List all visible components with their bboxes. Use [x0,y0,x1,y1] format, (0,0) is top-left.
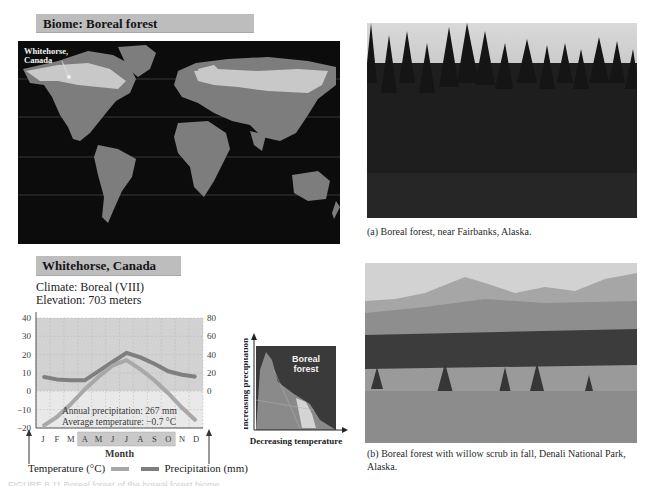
whitehorse-marker-icon [67,75,71,79]
x-axis-label: Month [105,448,134,459]
location-header: Whitehorse, Canada [36,256,181,276]
left-tick-label: −10 [17,405,32,415]
map-label-line2: Canada [24,56,68,65]
month-tick-label: J [41,434,45,444]
temperature-point [112,365,114,367]
diagram-y-arrow-icon [251,333,257,340]
month-tick-label: O [165,434,171,444]
photo-b-graphic [365,263,637,443]
world-map: Whitehorse, Canada [18,41,340,244]
precipitation-point [112,361,114,363]
left-tick-label: 0 [27,386,32,396]
precipitation-point [98,370,100,372]
diagram-label-line2: forest [293,364,318,374]
temperature-point [42,425,44,427]
month-tick-label: D [193,434,199,444]
map-label-whitehorse: Whitehorse, Canada [24,47,68,65]
month-tick-label: F [55,434,60,444]
tree-line [365,329,637,369]
biome-diagram: Boreal forest Decreasing temperature Inc… [244,330,349,450]
right-tick-label: 80 [207,313,217,323]
month-tick-label: N [179,434,185,444]
left-tick-label: 40 [22,313,32,323]
new-zealand [332,201,340,219]
precipitation-point [167,370,169,372]
precipitation-point [153,363,155,365]
legend-precipitation-label: Precipitation (mm) [164,462,247,474]
diagram-y-label: Increasing precipitation [244,338,250,430]
right-tick-label: 40 [207,350,217,360]
chart-annotation: Annual precipitation: 267 mm [62,406,177,416]
temperature-point [84,389,86,391]
diagram-x-arrow-icon [342,427,348,433]
figure-caption: FIGURE 8.11 Boreal forest of the boreal … [8,480,222,486]
month-tick-label: A [82,434,89,444]
photo-denali-willow-scrub [365,263,637,443]
left-tick-label: 20 [22,350,32,360]
temperature-point [56,416,58,418]
south-america [94,145,136,223]
temperature-point [153,380,155,382]
photo-boreal-forest-fairbanks [367,23,637,218]
month-tick-label: M [95,434,103,444]
world-map-graphic [18,41,340,244]
temperature-point [126,359,128,361]
australia [292,171,330,201]
precipitation-point [70,380,72,382]
legend-temperature-label: Temperature (°C) [28,462,105,474]
precipitation-point [126,352,128,354]
precipitation-point [56,379,58,381]
right-tick-label: 20 [207,368,217,378]
precipitation-point [42,376,44,378]
precipitation-point [140,357,142,359]
chart-legend: Temperature (°C) Precipitation (mm) [28,462,248,474]
biome-header: Biome: Boreal forest [36,14,254,33]
legend-temperature-swatch [111,467,129,471]
temperature-point [98,376,100,378]
left-tick-label: 10 [22,368,32,378]
precipitation-point [84,380,86,382]
legend-precipitation-swatch [141,467,159,471]
temperature-point [181,407,183,409]
month-tick-label: S [152,434,157,444]
caption-photo-a: (a) Boreal forest, near Fairbanks, Alask… [367,225,647,238]
photo-a-graphic [367,23,637,218]
month-tick-label: A [137,434,144,444]
diagram-label-line1: Boreal [292,354,320,364]
temperature-point [140,369,142,371]
caption-photo-b: (b) Boreal forest with willow scrub in f… [367,447,647,473]
right-tick-label: 60 [207,331,217,341]
chart-annotation: Average temperature: −0.7 °C [62,417,176,427]
right-tick-label: 0 [207,386,212,396]
diagram-x-label: Decreasing temperature [250,436,342,446]
precipitation-arrow-icon [206,429,212,436]
africa [174,121,230,197]
month-tick-label: M [67,434,75,444]
left-tick-label: 30 [22,331,32,341]
precipitation-point [181,374,183,376]
climograph-chart: 403020100−10−20806040200JFMAMJJASONDMont… [0,310,240,480]
temperature-point [167,392,169,394]
elevation-text: Elevation: 703 meters [36,293,141,308]
temperature-point [195,420,197,422]
precipitation-point [195,376,197,378]
